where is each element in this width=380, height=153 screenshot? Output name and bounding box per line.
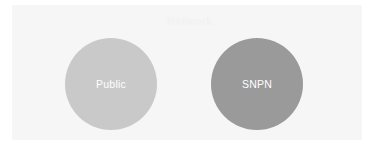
diagram-title: Network (0, 15, 380, 27)
diagram-canvas: Network Public SNPN (0, 0, 380, 153)
node-public-label: Public (96, 78, 126, 90)
node-snpn[interactable]: SNPN (211, 38, 303, 130)
node-snpn-label: SNPN (242, 78, 272, 90)
node-public[interactable]: Public (65, 38, 157, 130)
